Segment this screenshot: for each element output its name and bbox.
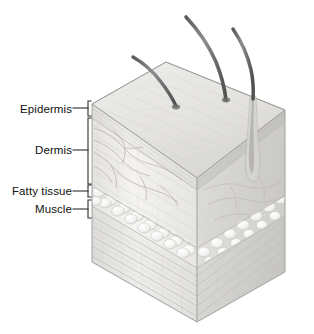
skin-diagram-figure: Epidermis Dermis Fatty tissue Muscle xyxy=(0,0,314,334)
label-muscle: Muscle xyxy=(6,203,72,216)
label-dermis: Dermis xyxy=(6,144,72,157)
skin-cross-section-illustration xyxy=(0,0,314,334)
label-epidermis: Epidermis xyxy=(6,103,72,116)
bracket-dermis xyxy=(73,118,91,184)
label-fatty-tissue: Fatty tissue xyxy=(0,185,72,198)
bracket-epidermis xyxy=(73,101,91,116)
bracket-fatty-tissue xyxy=(73,185,91,197)
leader-lines-and-brackets xyxy=(73,101,91,218)
bracket-muscle xyxy=(73,200,91,218)
